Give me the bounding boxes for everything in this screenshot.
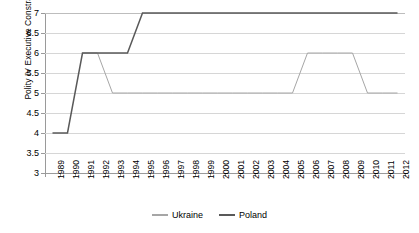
legend-swatch-icon [219, 214, 235, 216]
line-chart: Polity IV Executive Constraints 76.565.5… [0, 0, 419, 233]
legend-label: Poland [239, 210, 267, 220]
y-axis-title: Polity IV Executive Constraints [23, 0, 33, 121]
legend-entry-ukraine[interactable]: Ukraine [152, 210, 203, 220]
series-line-ukraine [83, 53, 398, 93]
legend-label: Ukraine [172, 210, 203, 220]
series-line-poland [53, 13, 398, 133]
legend-swatch-icon [152, 214, 168, 216]
series-layer [45, 13, 405, 173]
legend-entry-poland[interactable]: Poland [219, 210, 267, 220]
chart-legend: UkrainePoland [0, 210, 419, 220]
x-tick-mark [45, 173, 46, 177]
